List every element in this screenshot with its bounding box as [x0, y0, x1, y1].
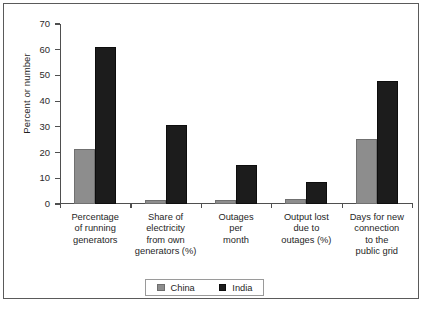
category-label-line: outages (%) [269, 235, 343, 246]
category-label-line: public grid [340, 246, 414, 257]
y-tick-label-wrap: 70 [24, 19, 50, 29]
category-label-line: generators [58, 235, 132, 246]
y-tick-label-wrap: 50 [24, 70, 50, 80]
legend-entry-china: China [157, 283, 195, 293]
category-label-line: connection [340, 223, 414, 234]
y-tick-label: 50 [26, 70, 50, 80]
category-label-3: Outagespermonth [199, 212, 273, 246]
y-tick-mark [55, 152, 60, 153]
x-tick-separator [271, 203, 272, 208]
category-label-line: of running [58, 223, 132, 234]
y-tick-mark [55, 23, 60, 24]
y-tick-label: 10 [26, 173, 50, 183]
legend-entry-india: India [219, 283, 253, 293]
category-label-1: Percentageof runninggenerators [58, 212, 132, 246]
category-label-line: electricity [128, 223, 202, 234]
y-tick-label-wrap: 40 [24, 96, 50, 106]
y-axis-line [60, 24, 61, 204]
y-tick-label-wrap: 30 [24, 122, 50, 132]
y-tick-label: 60 [26, 45, 50, 55]
legend-swatch-icon [219, 284, 227, 292]
chart-legend: ChinaIndia [145, 279, 264, 296]
x-tick-separator [60, 203, 61, 208]
bar-india-1 [95, 47, 116, 204]
bar-china-1 [74, 149, 95, 204]
legend-label: India [232, 283, 252, 293]
bar-india-5 [377, 81, 398, 204]
y-tick-label-wrap: 10 [24, 173, 50, 183]
y-tick-mark [55, 178, 60, 179]
category-label-line: due to [269, 223, 343, 234]
category-label-4: Output lostdue tooutages (%) [269, 212, 343, 246]
figure-container: Percent or number 010203040506070 Percen… [0, 0, 425, 315]
y-tick-mark [55, 101, 60, 102]
category-label-2: Share ofelectricityfrom owngenerators (%… [128, 212, 202, 258]
x-tick-separator [412, 203, 413, 208]
category-label-5: Days for newconnectionto thepublic grid [340, 212, 414, 258]
bar-china-2 [145, 200, 166, 204]
bar-india-3 [236, 165, 257, 204]
category-label-line: Percentage [58, 212, 132, 223]
category-label-line: per [199, 223, 273, 234]
y-tick-label-wrap: 0 [24, 199, 50, 209]
legend-swatch-icon [157, 284, 165, 292]
bar-india-4 [306, 182, 327, 204]
category-label-line: Output lost [269, 212, 343, 223]
bar-china-5 [356, 139, 377, 204]
bar-india-2 [166, 125, 187, 204]
y-tick-label-wrap: 60 [24, 45, 50, 55]
x-tick-separator [130, 203, 131, 208]
y-tick-mark [55, 49, 60, 50]
x-tick-separator [342, 203, 343, 208]
y-tick-label: 30 [26, 122, 50, 132]
y-tick-mark [55, 75, 60, 76]
y-tick-label: 70 [26, 19, 50, 29]
y-tick-mark [55, 126, 60, 127]
legend-label: China [171, 283, 195, 293]
category-label-line: generators (%) [128, 246, 202, 257]
y-tick-label-wrap: 20 [24, 148, 50, 158]
chart-panel: Percent or number 010203040506070 Percen… [3, 3, 419, 299]
bar-china-3 [215, 200, 236, 204]
category-label-line: Outages [199, 212, 273, 223]
bar-china-4 [285, 199, 306, 204]
y-tick-label: 0 [26, 199, 50, 209]
category-label-line: Share of [128, 212, 202, 223]
y-tick-label: 20 [26, 148, 50, 158]
y-tick-label: 40 [26, 96, 50, 106]
category-label-line: Days for new [340, 212, 414, 223]
category-label-line: from own [128, 235, 202, 246]
category-label-line: month [199, 235, 273, 246]
x-tick-separator [201, 203, 202, 208]
category-label-line: to the [340, 235, 414, 246]
